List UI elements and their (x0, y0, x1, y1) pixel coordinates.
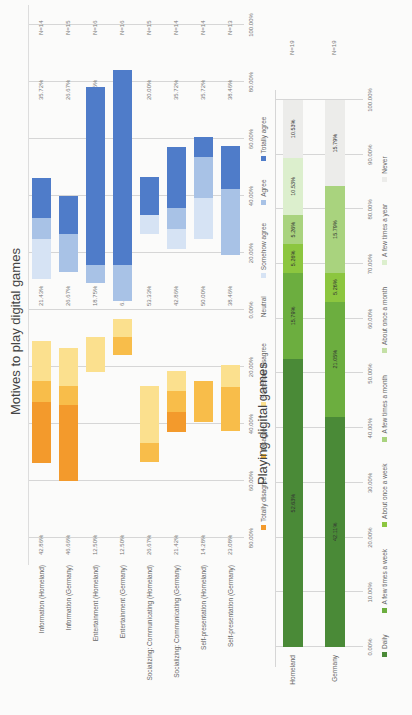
n-count: N=14 (200, 20, 206, 35)
right-total: 35.72% (200, 80, 206, 100)
segment-value-label: 5.26% (283, 244, 303, 273)
legend-label: Somehow agree (260, 223, 267, 270)
legend-item: About once a week (381, 464, 388, 527)
bar-segment-totally-agree (86, 87, 105, 265)
legend-label: About once a month (381, 287, 388, 345)
chart-legend: DailyA few times a weekAbout once a week… (381, 156, 388, 657)
left-total: 12.50% (119, 535, 125, 555)
bar-segment-somehow-agree (140, 215, 159, 234)
legend-swatch (261, 525, 266, 530)
x-tick-label: 20.00% (248, 243, 254, 263)
legend-item: A few times a week (381, 549, 388, 613)
row-label: Information (Germany) (65, 565, 72, 630)
x-tick-label: 0.00% (367, 638, 373, 655)
right-total: 35.72% (38, 80, 44, 100)
legend-label: Neutral (260, 296, 267, 317)
left-total: 46.66% (65, 535, 71, 555)
right-total: 26.67% (65, 80, 71, 100)
x-tick-label: 60.00% (248, 129, 254, 149)
legend-swatch (382, 348, 387, 353)
x-tick-label: 40.00% (248, 414, 254, 434)
bar-segment-disagree (113, 337, 132, 355)
n-count: N=16 (92, 20, 98, 35)
x-tick-label: 70.00% (367, 254, 373, 274)
rotated-page: Motives to play digital games80.00%60.00… (0, 0, 412, 715)
bar-segment-totally-agree (167, 147, 186, 208)
legend-item: Somehow agree (260, 223, 267, 278)
segment-value-label: 42.11% (325, 417, 345, 647)
bar-segment-agree (32, 218, 51, 238)
n-count: N=15 (146, 20, 152, 35)
x-tick-label: 90.00% (367, 145, 373, 165)
legend-item: Agree (260, 179, 267, 204)
neutral-value: 26.67% (65, 286, 71, 306)
legend-swatch (382, 177, 387, 182)
row-label: Socializing: Communicating (Germany) (173, 565, 180, 678)
gridline (28, 537, 244, 538)
bar-segment-somehow-agree (167, 229, 186, 249)
legend-item: A few times a year (381, 204, 388, 265)
bar-segment-totally-agree (113, 70, 132, 266)
legend-swatch (382, 522, 387, 527)
n-count: N=16 (119, 20, 125, 35)
right-total: 35.72% (173, 80, 179, 100)
bar-segment-agree (113, 265, 132, 301)
gridline (28, 309, 244, 310)
segment-value-label: 52.63% (283, 359, 303, 647)
row-label: Information (Homeland) (38, 565, 45, 633)
x-tick-label: 50.00% (367, 363, 373, 383)
segment-value-label: 15.79% (325, 100, 345, 186)
legend-label: Agree (260, 179, 267, 196)
x-tick-label: 80.00% (248, 528, 254, 548)
bar-segment-disagree (140, 443, 159, 462)
neutral-value: 50.00% (200, 286, 206, 306)
x-tick-label: 30.00% (367, 473, 373, 493)
legend-swatch (261, 200, 266, 205)
legend-swatch (382, 260, 387, 265)
legend-item: Neutral (260, 296, 267, 325)
chart-title: Motives to play digital games (8, 248, 23, 415)
legend-label: Never (381, 156, 388, 173)
legend-swatch (382, 652, 387, 657)
bar-segment-disagree (167, 391, 186, 411)
n-count: N=19 (331, 40, 337, 55)
x-tick-label: 40.00% (248, 186, 254, 206)
row-label: Self-presentation (Homeland) (200, 565, 207, 650)
left-total: 12.50% (92, 535, 98, 555)
x-tick-label: 40.00% (367, 418, 373, 438)
n-count: N=15 (65, 20, 71, 35)
bar-segment-agree (194, 157, 213, 198)
segment-value-label: 10.53% (283, 158, 303, 216)
legend-swatch (261, 156, 266, 161)
x-tick-label: 0.00% (248, 301, 254, 318)
legend-label: Totally agree (260, 117, 267, 154)
bar-segment-disagree (221, 387, 240, 431)
bar-segment-totally-agree (59, 196, 78, 234)
gridline (28, 24, 244, 25)
row-label: Socializing: Communicating (Homeland) (146, 565, 153, 681)
x-tick-label: 20.00% (248, 357, 254, 377)
x-tick-label: 100.00% (367, 88, 373, 112)
segment-value-label: 10.53% (283, 100, 303, 158)
left-total: 42.86% (38, 535, 44, 555)
legend-item: A few times a month (381, 375, 388, 442)
bar-segment-somehow-disagree (86, 337, 105, 373)
legend-item: Never (381, 156, 388, 181)
legend-label: A few times a year (381, 204, 388, 257)
legend-label: A few times a week (381, 549, 388, 605)
bar-segment-totally-agree (140, 177, 159, 215)
bar-segment-totally-disagree (32, 402, 51, 463)
legend-item: About once a month (381, 287, 388, 353)
bar-segment-somehow-agree (194, 198, 213, 239)
bar-segment-disagree (59, 386, 78, 405)
neutral-value: 38.46% (227, 286, 233, 306)
bar-segment-totally-agree (194, 137, 213, 157)
legend-swatch (261, 273, 266, 278)
bar-segment-totally-disagree (59, 405, 78, 481)
bar-segment-agree (59, 234, 78, 272)
segment-value-label: 15.79% (283, 273, 303, 359)
segment-value-label: 21.05% (325, 302, 345, 417)
neutral-value: 21.43% (38, 286, 44, 306)
bar-segment-totally-disagree (167, 412, 186, 432)
bar-segment-disagree (32, 381, 51, 401)
